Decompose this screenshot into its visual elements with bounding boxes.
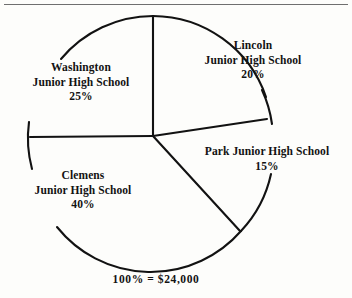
slice-label-lincoln-line2: Junior High School xyxy=(205,54,302,66)
slice-percent-park: 15% xyxy=(186,159,348,174)
slice-label-park: Park Junior High School 15% xyxy=(186,144,348,173)
slice-label-washington: Washington Junior High School 25% xyxy=(6,60,156,104)
slice-percent-clemens: 40% xyxy=(8,197,158,212)
chart-total-note: 100% = $24,000 xyxy=(56,272,256,287)
arc-clemens xyxy=(57,227,241,272)
slice-label-clemens-line1: Clemens xyxy=(62,169,105,181)
slice-label-clemens-line2: Junior High School xyxy=(35,184,132,196)
slice-percent-lincoln: 20% xyxy=(178,67,328,82)
slice-label-washington-line1: Washington xyxy=(51,61,111,73)
pie-chart-figure: Washington Junior High School 25% Lincol… xyxy=(0,0,352,298)
slice-label-lincoln: Lincoln Junior High School 20% xyxy=(178,38,328,82)
slice-label-clemens: Clemens Junior High School 40% xyxy=(8,168,158,212)
arc-washington-top xyxy=(61,16,153,59)
slice-label-park-line1: Park Junior High School xyxy=(205,145,329,157)
slice-label-lincoln-line1: Lincoln xyxy=(234,39,272,51)
arc-park xyxy=(241,174,271,231)
slice-label-washington-line2: Junior High School xyxy=(33,76,130,88)
arc-washington-left-stub xyxy=(28,122,32,169)
divider-lincoln-park xyxy=(153,119,267,136)
divider-clemens-washington xyxy=(30,136,153,137)
slice-percent-washington: 25% xyxy=(6,89,156,104)
